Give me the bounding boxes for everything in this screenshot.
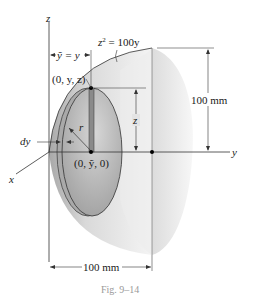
strip-element: [89, 88, 94, 152]
svg-text:dy: dy: [20, 135, 31, 147]
height-dimension-label: 100 mm: [191, 94, 228, 106]
x-axis-label: x: [8, 173, 14, 185]
x-axis: [16, 152, 49, 174]
z-axis-label: z: [45, 12, 51, 24]
figure-caption: Fig. 9–14: [101, 284, 139, 295]
length-dimension: 100 mm: [50, 255, 152, 273]
length-dimension-label: 100 mm: [83, 261, 120, 273]
point-center-label: (0, ỹ, 0): [74, 157, 109, 170]
radius-label: r: [79, 121, 84, 133]
svg-text:z: z: [132, 114, 138, 126]
point-top-label: (0, y, z): [52, 73, 86, 86]
centroid-marker: [150, 150, 154, 154]
svg-text:z2 = 100y: z2 = 100y: [97, 36, 140, 48]
figure-paraboloid-centroid: z y x ỹ = y z2 = 100y (0, y, z) (0, ỹ, 0…: [0, 0, 255, 305]
ybar-equals-y-label: ỹ = y: [56, 49, 80, 61]
y-axis-label: y: [231, 146, 237, 158]
point-center-marker: [89, 150, 93, 154]
